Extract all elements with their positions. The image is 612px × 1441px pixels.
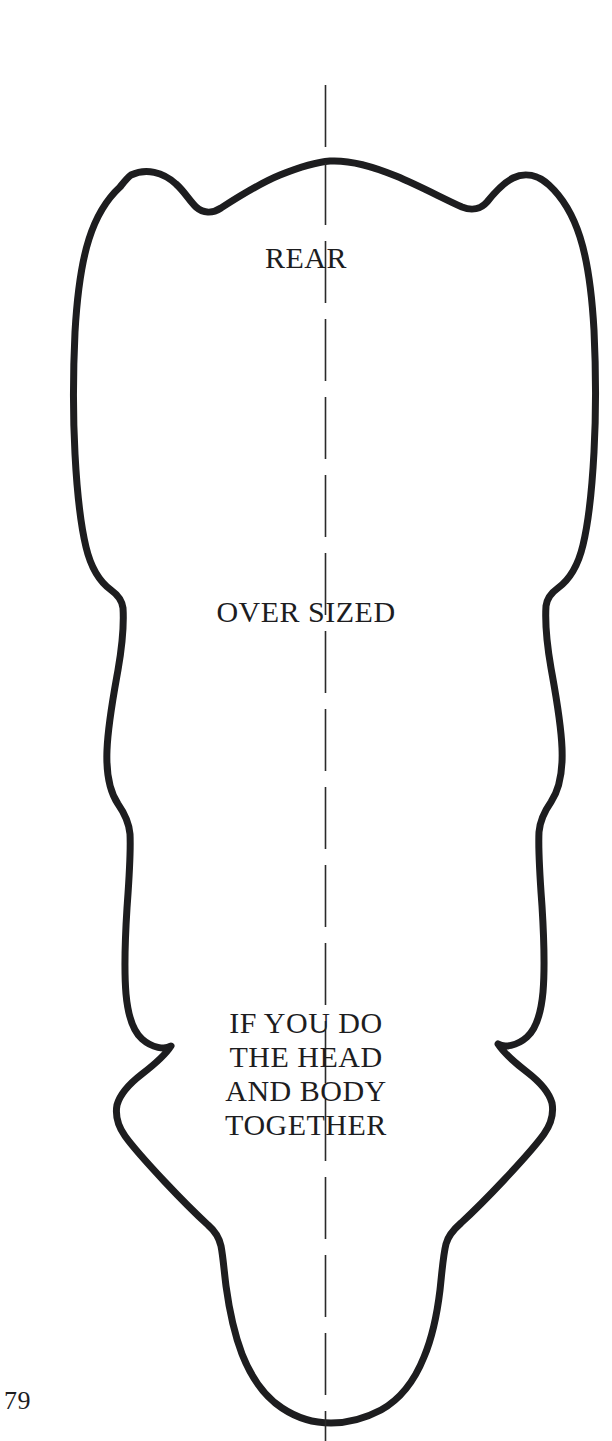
note-line-3: AND BODY bbox=[0, 1074, 612, 1108]
note-line-2: THE HEAD bbox=[0, 1040, 612, 1074]
page-canvas: REAR OVER SIZED IF YOU DO THE HEAD AND B… bbox=[0, 0, 612, 1441]
note-block: IF YOU DO THE HEAD AND BODY TOGETHER bbox=[0, 1006, 612, 1142]
note-line-1: IF YOU DO bbox=[0, 1006, 612, 1040]
page-number: 79 bbox=[4, 1386, 31, 1416]
label-oversized: OVER SIZED bbox=[0, 597, 612, 627]
label-rear: REAR bbox=[0, 243, 612, 273]
hide-outline-path bbox=[74, 161, 596, 1423]
note-line-4: TOGETHER bbox=[0, 1108, 612, 1142]
hide-pattern-diagram bbox=[0, 0, 612, 1441]
